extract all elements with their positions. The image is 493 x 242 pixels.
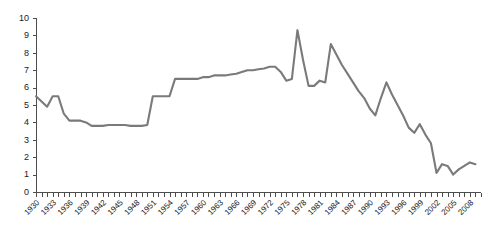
x-tick-label: 1972 xyxy=(256,198,275,217)
x-tick-label: 1966 xyxy=(223,198,242,217)
x-tick-label: 1945 xyxy=(106,198,125,217)
y-axis: 012345678910 xyxy=(19,13,37,197)
x-tick-label: 1990 xyxy=(356,198,375,217)
x-tick-label: 1987 xyxy=(340,198,359,217)
y-tick-label: 8 xyxy=(24,48,29,58)
x-tick-label: 1975 xyxy=(273,198,292,217)
data-line-series-1 xyxy=(36,30,475,174)
y-tick-label: 4 xyxy=(24,117,29,127)
x-tick-label: 2002 xyxy=(423,198,442,217)
x-tick-label: 1993 xyxy=(373,198,392,217)
x-tick-label: 1948 xyxy=(123,198,142,217)
x-tick-label: 1996 xyxy=(390,198,409,217)
x-tick-label: 2005 xyxy=(440,198,459,217)
y-tick-label: 7 xyxy=(24,65,29,75)
data-series-group xyxy=(36,30,475,174)
x-tick-label: 1939 xyxy=(73,198,92,217)
y-tick-label: 9 xyxy=(24,30,29,40)
x-tick-label: 1960 xyxy=(189,198,208,217)
line-chart: 012345678910 193019331936193919421945194… xyxy=(0,0,493,242)
chart-canvas: 012345678910 193019331936193919421945194… xyxy=(0,0,493,242)
y-tick-label: 1 xyxy=(24,169,29,179)
y-tick-label: 2 xyxy=(24,152,29,162)
x-axis: 1930193319361939194219451948195119541957… xyxy=(22,193,481,217)
x-tick-label: 1957 xyxy=(173,198,192,217)
x-tick-label: 1954 xyxy=(156,198,175,217)
x-tick-label: 1969 xyxy=(239,198,258,217)
x-tick-label: 1963 xyxy=(206,198,225,217)
x-tick-label: 1978 xyxy=(289,198,308,217)
x-tick-label: 1951 xyxy=(139,198,158,217)
x-tick-label: 1936 xyxy=(56,198,75,217)
x-tick-label: 1930 xyxy=(22,198,41,217)
y-tick-label: 3 xyxy=(24,135,29,145)
y-tick-label: 0 xyxy=(24,187,29,197)
x-tick-label: 1984 xyxy=(323,198,342,217)
x-tick-label: 1933 xyxy=(39,198,58,217)
x-tick-label: 1999 xyxy=(406,198,425,217)
y-tick-label: 10 xyxy=(19,13,29,23)
x-tick-label: 1942 xyxy=(89,198,108,217)
y-tick-label: 6 xyxy=(24,82,29,92)
x-tick-label: 1981 xyxy=(306,198,325,217)
x-tick-label: 2008 xyxy=(456,198,475,217)
y-tick-label: 5 xyxy=(24,100,29,110)
